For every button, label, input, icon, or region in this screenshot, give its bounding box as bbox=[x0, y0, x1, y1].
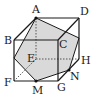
label-e: E bbox=[27, 52, 35, 65]
label-g: G bbox=[57, 81, 66, 94]
label-n: N bbox=[70, 70, 80, 83]
label-d: D bbox=[80, 5, 89, 18]
label-f: F bbox=[4, 76, 12, 89]
label-h: H bbox=[81, 54, 91, 67]
label-a: A bbox=[31, 3, 41, 16]
label-c: C bbox=[59, 38, 67, 51]
point-m bbox=[34, 79, 37, 82]
cube-diagram: A B C D E F G H M N bbox=[0, 0, 98, 97]
label-b: B bbox=[4, 34, 12, 47]
label-m: M bbox=[32, 84, 43, 97]
point-a bbox=[34, 16, 37, 19]
